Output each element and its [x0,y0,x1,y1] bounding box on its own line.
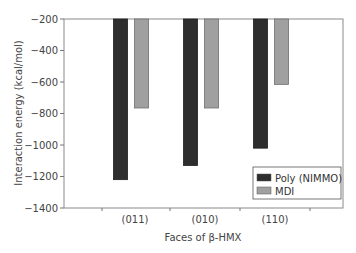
y-tick-label: −1000 [24,140,58,151]
bar-mdi [205,19,219,108]
y-tick-label: −1200 [24,171,58,182]
legend-label-poly-nimmo: Poly (NIMMO) [275,173,342,184]
x-axis-title: Faces of β-HMX [165,232,242,243]
legend-label-mdi: MDI [275,186,294,197]
x-axis: (011)(010)(110) [102,208,310,225]
x-tick-label: (010) [192,214,219,225]
y-tick-label: −400 [31,45,58,56]
y-tick-label: −600 [31,77,58,88]
y-tick-label: −200 [31,14,58,25]
bar-mdi [275,19,289,84]
bar-chart: −200−400−600−800−1000−1200−1400 (011)(01… [0,0,356,253]
legend-swatch-poly-nimmo [257,174,271,181]
bar-poly-nimmo [184,19,198,165]
y-axis-title: Interaction energy (kcal/mol) [13,40,24,186]
y-axis: −200−400−600−800−1000−1200−1400 [24,14,64,214]
x-tick-label: (011) [122,214,149,225]
y-tick-label: −1400 [24,203,58,214]
bar-poly-nimmo [254,19,268,148]
legend: Poly (NIMMO)MDI [253,167,342,199]
y-tick-label: −800 [31,108,58,119]
bar-poly-nimmo [114,19,128,180]
bar-mdi [135,19,149,108]
legend-swatch-mdi [257,187,271,194]
x-tick-label: (110) [262,214,289,225]
